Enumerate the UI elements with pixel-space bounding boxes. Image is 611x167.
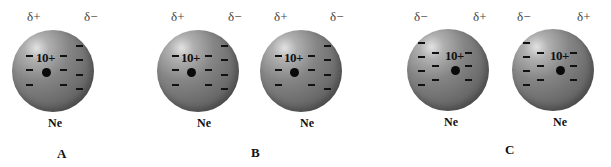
electron-minus-mark — [418, 42, 425, 44]
electron-minus-mark — [76, 59, 83, 61]
electron-minus-mark — [275, 69, 282, 71]
electron-minus-mark — [570, 52, 577, 54]
electron-minus-mark — [324, 59, 331, 61]
partial-charge-right: δ− — [330, 9, 343, 25]
electron-minus-mark — [432, 65, 439, 67]
electron-minus-mark — [26, 55, 33, 57]
electron-minus-mark — [60, 69, 67, 71]
electron-minus-mark — [205, 69, 212, 71]
neon-atom-sphere: 10+ — [260, 30, 342, 112]
electron-minus-mark — [221, 88, 228, 90]
partial-charge-right: δ− — [84, 9, 97, 25]
electron-minus-mark — [76, 74, 83, 76]
neon-atom-sphere: 10+ — [407, 29, 489, 111]
partial-charge-right: δ+ — [473, 9, 486, 25]
electron-minus-mark — [570, 79, 577, 81]
electron-minus-mark — [418, 84, 425, 86]
neon-atom-sphere: 10+ — [12, 30, 94, 112]
electron-minus-mark — [172, 69, 179, 71]
element-label: Ne — [48, 116, 62, 131]
element-label: Ne — [300, 116, 314, 131]
partial-charge-left: δ− — [517, 9, 530, 25]
element-label: Ne — [197, 116, 211, 131]
neon-atom-sphere: 10+ — [157, 30, 239, 112]
electron-minus-mark — [570, 65, 577, 67]
nuclear-charge-label: 10+ — [36, 50, 55, 66]
electron-minus-mark — [523, 84, 530, 86]
electron-minus-mark — [221, 45, 228, 47]
electron-minus-mark — [60, 84, 67, 86]
electron-minus-mark — [275, 55, 282, 57]
nuclear-charge-label: 10+ — [181, 50, 200, 66]
neon-atom-sphere: 10+ — [512, 29, 594, 111]
electron-minus-mark — [432, 52, 439, 54]
panel-label-a: A — [57, 146, 66, 162]
electron-minus-mark — [324, 45, 331, 47]
electron-minus-mark — [308, 69, 315, 71]
electron-minus-mark — [221, 59, 228, 61]
element-label: Ne — [553, 115, 567, 130]
nucleus-dot — [556, 66, 565, 75]
electron-minus-mark — [432, 79, 439, 81]
nuclear-charge-label: 10+ — [550, 48, 569, 64]
nuclear-charge-label: 10+ — [445, 48, 464, 64]
electron-minus-mark — [26, 69, 33, 71]
electron-minus-mark — [523, 42, 530, 44]
nuclear-charge-label: 10+ — [284, 50, 303, 66]
electron-minus-mark — [205, 55, 212, 57]
element-label: Ne — [444, 115, 458, 130]
panel-label-b: B — [251, 145, 260, 161]
electron-minus-mark — [308, 55, 315, 57]
partial-charge-left: δ− — [414, 9, 427, 25]
electron-minus-mark — [26, 84, 33, 86]
electron-minus-mark — [324, 88, 331, 90]
electron-minus-mark — [172, 55, 179, 57]
nucleus-dot — [290, 68, 299, 77]
partial-charge-right: δ− — [228, 9, 241, 25]
electron-minus-mark — [205, 84, 212, 86]
electron-minus-mark — [221, 74, 228, 76]
electron-minus-mark — [172, 84, 179, 86]
electron-minus-mark — [76, 45, 83, 47]
electron-minus-mark — [418, 56, 425, 58]
electron-minus-mark — [60, 55, 67, 57]
electron-minus-mark — [465, 52, 472, 54]
electron-minus-mark — [537, 52, 544, 54]
electron-minus-mark — [523, 56, 530, 58]
nucleus-dot — [187, 68, 196, 77]
electron-minus-mark — [418, 70, 425, 72]
electron-minus-mark — [465, 65, 472, 67]
partial-charge-left: δ+ — [171, 9, 184, 25]
electron-minus-mark — [523, 70, 530, 72]
partial-charge-left: δ+ — [27, 9, 40, 25]
partial-charge-left: δ+ — [274, 9, 287, 25]
electron-minus-mark — [465, 79, 472, 81]
electron-minus-mark — [76, 88, 83, 90]
partial-charge-right: δ+ — [577, 9, 590, 25]
electron-minus-mark — [537, 79, 544, 81]
electron-minus-mark — [275, 84, 282, 86]
nucleus-dot — [42, 68, 51, 77]
electron-minus-mark — [308, 84, 315, 86]
electron-minus-mark — [537, 65, 544, 67]
nucleus-dot — [451, 66, 460, 75]
electron-minus-mark — [324, 74, 331, 76]
panel-label-c: C — [505, 142, 514, 158]
